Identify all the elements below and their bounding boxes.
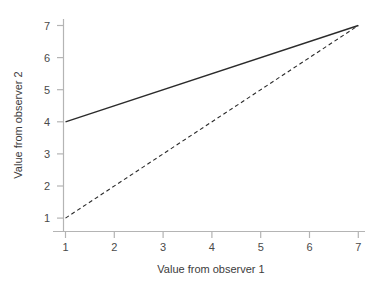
y-tick-label: 5	[44, 84, 50, 96]
chart-container: 7 6 5 4 3 2 1 1 2 3 4 5 6 7	[0, 0, 389, 291]
x-axis-title: Value from observer 1	[157, 263, 264, 275]
y-tick-label: 3	[44, 148, 50, 160]
x-tick-label: 4	[209, 241, 215, 253]
y-tick-label: 7	[44, 20, 50, 32]
x-tick-label: 5	[258, 241, 264, 253]
y-axis-tick-labels: 7 6 5 4 3 2 1	[44, 20, 50, 225]
x-tick-label: 2	[111, 241, 117, 253]
y-tick-label: 4	[44, 116, 50, 128]
y-tick-label: 6	[44, 52, 50, 64]
y-tick-label: 2	[44, 180, 50, 192]
x-axis-tick-labels: 1 2 3 4 5 6 7	[62, 241, 361, 253]
y-tick-label: 1	[44, 212, 50, 224]
x-axis-ticks	[66, 232, 359, 239]
x-tick-label: 7	[355, 241, 361, 253]
x-tick-label: 3	[160, 241, 166, 253]
chart-plot-area: 7 6 5 4 3 2 1 1 2 3 4 5 6 7	[0, 0, 389, 291]
series-regression-line	[66, 26, 359, 122]
x-tick-label: 6	[306, 241, 312, 253]
y-axis-ticks	[57, 26, 64, 219]
x-tick-label: 1	[62, 241, 68, 253]
y-axis-title: Value from observer 2	[12, 71, 24, 178]
series-line-of-equality	[66, 26, 359, 219]
